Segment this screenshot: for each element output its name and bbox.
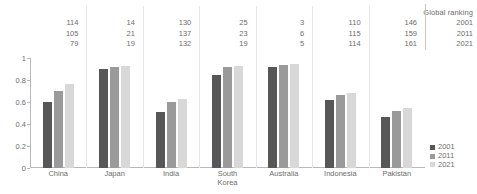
bar[interactable] [167, 102, 176, 168]
ranking-column: 146159161 [369, 18, 417, 50]
group-separator [143, 6, 144, 168]
y-axis-tick-label: 0 [22, 164, 26, 173]
x-axis-category-label: South Korea [217, 170, 237, 187]
ranking-year: 2011 [456, 29, 473, 40]
bar-group: China [30, 58, 86, 168]
group-separator [199, 6, 200, 168]
bar[interactable] [156, 112, 165, 168]
ranking-value: 6 [256, 29, 304, 40]
ranking-value: 114 [312, 39, 360, 50]
group-separator [256, 6, 257, 168]
bar[interactable] [121, 66, 130, 168]
bar[interactable] [392, 111, 401, 168]
ranking-value: 21 [86, 29, 134, 40]
ranking-value: 3 [256, 18, 304, 29]
legend-label: 2021 [438, 161, 455, 170]
bar[interactable] [223, 67, 232, 168]
bar-group: Australia [256, 58, 312, 168]
bar[interactable] [43, 102, 52, 168]
y-axis-tick-label: 1 [22, 54, 26, 63]
bar[interactable] [178, 99, 187, 168]
ranking-value: 114 [30, 18, 78, 29]
bar[interactable] [325, 100, 334, 168]
y-axis-tick-label: 0.4 [16, 120, 26, 129]
ranking-column: 142119 [86, 18, 134, 50]
global-ranking-header: Global ranking [423, 8, 473, 17]
bar[interactable] [54, 91, 63, 168]
bar[interactable] [99, 69, 108, 168]
legend: 200120112021 [430, 143, 455, 169]
ranking-value: 130 [143, 18, 191, 29]
chart-container: Global ranking 2001 2011 2021 1141057914… [0, 0, 477, 194]
bar[interactable] [347, 93, 356, 168]
ranking-year: 2001 [456, 18, 473, 29]
bar[interactable] [279, 65, 288, 168]
bar[interactable] [212, 75, 221, 169]
bar[interactable] [110, 67, 119, 168]
ranking-value: 5 [256, 39, 304, 50]
bar-group: Indonesia [312, 58, 368, 168]
ranking-value: 115 [312, 29, 360, 40]
global-ranking-year-column: 2001 2011 2021 [456, 18, 473, 50]
ranking-value: 79 [30, 39, 78, 50]
y-axis-tick-label: 0.8 [16, 76, 26, 85]
bar[interactable] [234, 66, 243, 168]
ranking-column: 130137132 [143, 18, 191, 50]
ranking-value: 19 [199, 39, 247, 50]
bar[interactable] [403, 108, 412, 169]
ranking-value: 14 [86, 18, 134, 29]
ranking-value: 105 [30, 29, 78, 40]
bar[interactable] [65, 84, 74, 168]
bar[interactable] [381, 117, 390, 168]
x-axis-category-label: Pakistan [382, 170, 411, 179]
x-axis-category-label: Australia [269, 170, 298, 179]
legend-swatch-icon [430, 162, 435, 167]
ranking-value: 19 [86, 39, 134, 50]
y-axis-tick-mark [27, 168, 30, 169]
x-axis-category-label: India [163, 170, 179, 179]
ranking-value: 25 [199, 18, 247, 29]
ranking-column: 110115114 [312, 18, 360, 50]
legend-swatch-icon [430, 145, 435, 150]
y-axis-tick-label: 0.6 [16, 98, 26, 107]
y-axis-tick-label: 0.2 [16, 142, 26, 151]
global-ranking-table: Global ranking 2001 2011 2021 1141057914… [0, 0, 477, 52]
bar-group: South Korea [199, 58, 255, 168]
ranking-header-separator [425, 4, 426, 50]
ranking-value: 132 [143, 39, 191, 50]
bar-group: Japan [86, 58, 142, 168]
legend-item[interactable]: 2021 [430, 161, 455, 170]
x-axis-category-label: China [48, 170, 68, 179]
bar[interactable] [268, 67, 277, 168]
bar[interactable] [336, 95, 345, 168]
legend-swatch-icon [430, 154, 435, 159]
group-separator [86, 6, 87, 168]
group-separator [369, 6, 370, 168]
ranking-column: 252319 [199, 18, 247, 50]
plot-area: 00.20.40.60.81 ChinaJapanIndiaSouth Kore… [30, 58, 425, 168]
ranking-column: 11410579 [30, 18, 78, 50]
bar-group: Pakistan [369, 58, 425, 168]
group-separator [312, 6, 313, 168]
x-axis-category-label: Japan [104, 170, 124, 179]
x-axis-category-label: Indonesia [324, 170, 357, 179]
bar-group: India [143, 58, 199, 168]
ranking-year: 2021 [456, 39, 473, 50]
ranking-value: 23 [199, 29, 247, 40]
ranking-column: 365 [256, 18, 304, 50]
bar[interactable] [290, 64, 299, 169]
ranking-value: 137 [143, 29, 191, 40]
ranking-value: 110 [312, 18, 360, 29]
ranking-value: 159 [369, 29, 417, 40]
ranking-value: 146 [369, 18, 417, 29]
ranking-value: 161 [369, 39, 417, 50]
